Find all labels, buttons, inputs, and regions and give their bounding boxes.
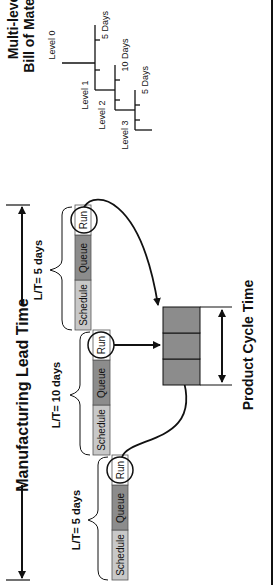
manufacturing-lead-time-label: Manufacturing Lead Time (14, 298, 31, 492)
stage-3-schedule: Schedule (78, 284, 89, 326)
stage-2: L/T= 10 days Schedule Queue Run (50, 330, 114, 455)
stage-1-queue: Queue (115, 493, 126, 523)
diagram-svg: Manufacturing Lead Time L/T= 5 days Sche… (0, 0, 277, 585)
bom-duration-2: 10 Days (120, 38, 130, 72)
bom-level-0: Level 0 (47, 30, 57, 59)
bom-level-2: Level 2 (97, 100, 107, 129)
stage-3-run: Run (78, 211, 89, 229)
stage-3: L/T= 5 days Schedule Queue Run (32, 205, 97, 330)
bom-duration-1: 5 Days (100, 10, 110, 39)
bom-duration-3: 5 Days (140, 65, 150, 94)
bom-title-line2: Bill of Material (21, 0, 37, 73)
stage-2-run: Run (96, 336, 107, 354)
stage-1-schedule: Schedule (115, 534, 126, 576)
stage-3-queue: Queue (78, 243, 89, 273)
stage-1: L/T= 5 days Schedule Queue Run (70, 455, 133, 580)
bom-level-1: Level 1 (80, 80, 90, 109)
stage-2-lead-time: L/T= 10 days (50, 362, 62, 428)
stage-2-schedule: Schedule (96, 409, 107, 451)
stage-1-lead-time: L/T= 5 days (70, 490, 82, 550)
bom-level-3: Level 3 (120, 120, 130, 149)
bill-of-material: Multi-level Bill of Material Level 0 Lev… (5, 0, 152, 150)
product-cycle-time-label: Product Cycle Time (240, 280, 256, 411)
product-cycle-box: Product Cycle Time (163, 280, 256, 411)
bom-title-line1: Multi-level (5, 0, 21, 59)
manufacturing-lead-time-arrow: Manufacturing Lead Time (6, 205, 31, 580)
stage-2-queue: Queue (96, 368, 107, 398)
stage-1-run: Run (115, 461, 126, 479)
stage-3-lead-time: L/T= 5 days (32, 240, 44, 300)
diagram-canvas: Manufacturing Lead Time L/T= 5 days Sche… (0, 0, 277, 585)
